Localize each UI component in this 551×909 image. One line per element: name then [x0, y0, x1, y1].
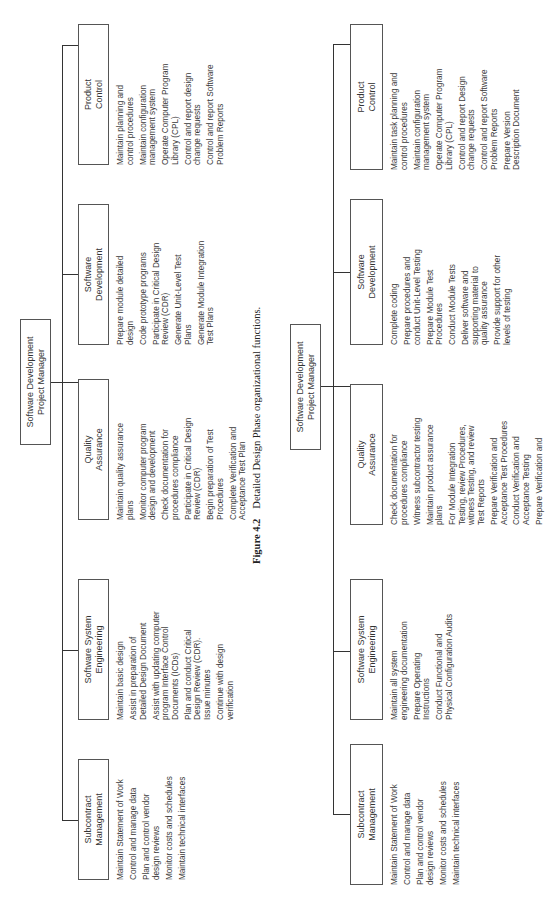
list-item: Maintain product assurance plans: [426, 360, 445, 525]
list-item: Deliver software and supporting material…: [461, 180, 490, 345]
unit-box-subcontract-management: Subcontract Management: [78, 759, 109, 880]
connector-subcontract: [333, 814, 350, 815]
list-item: Prepare Verification and Acceptance Test…: [490, 360, 509, 525]
manager-connector: [51, 382, 78, 383]
function-list-product-control: Maintain task planning and control proce…: [390, 5, 525, 170]
list-item: For Module Integration Testing, review P…: [448, 360, 486, 525]
unit-title: Quality Assurance: [83, 428, 105, 471]
figure-title: Detailed Design Phase organizational fun…: [251, 307, 262, 509]
unit-box-software-system-engineering: Software System Engineering: [350, 579, 383, 720]
unit-title: Quality Assurance: [356, 433, 378, 476]
function-list-software-development: Prepare module detailed design Code prot…: [116, 185, 219, 345]
list-item: Maintain Statement of Work: [116, 730, 126, 880]
unit-box-product-control: Product Control: [350, 24, 383, 170]
function-list-product-control: Maintain planning and control procedures…: [116, 5, 229, 165]
unit-title: Software System Engineering: [83, 615, 105, 683]
list-item: Complete Verification and Acceptance Tes…: [229, 360, 248, 520]
project-manager-label: Software Development Project Manager: [25, 336, 47, 427]
org-chart-next-phase: Software Development Project Manager Sub…: [272, 0, 547, 909]
unit-title: Software Development: [356, 245, 378, 298]
list-item: Provide support for other levels of test…: [493, 180, 512, 345]
list-item: Plan and control vendor design reviews: [416, 735, 435, 885]
connector-pc: [333, 44, 350, 45]
list-item: Check documentation for procedures compl…: [161, 360, 180, 520]
list-item: Participate in Critical Design Review (C…: [184, 360, 203, 520]
unit-box-software-system-engineering: Software System Engineering: [78, 579, 109, 720]
function-list-quality-assurance: Check documentation for procedures compl…: [390, 360, 548, 525]
unit-title: Subcontract Management: [83, 793, 105, 846]
org-chart-detailed-design: Software Development Project Manager Sub…: [0, 0, 275, 909]
manager-connector: [321, 386, 350, 387]
unit-box-quality-assurance: Quality Assurance: [350, 384, 383, 525]
list-item: Generate Module Integration Test Plans: [197, 185, 216, 345]
list-item: Maintain configuration management system: [413, 5, 432, 170]
list-item: Monitor costs and schedules: [439, 735, 449, 885]
function-list-subcontract-management: Maintain Statement of Work Control and m…: [116, 730, 191, 880]
connector-sse: [333, 651, 350, 652]
list-item: Participate in Critical Design Review (C…: [152, 185, 171, 345]
project-manager-label: Software Development Project Manager: [295, 341, 317, 432]
list-item: Begin preparation of Test Procedures: [206, 360, 225, 520]
connector-sd: [333, 272, 350, 273]
project-manager-box: Software Development Project Manager: [290, 324, 321, 450]
unit-title: Software System Engineering: [356, 615, 378, 683]
list-item: Control and report Design change request…: [458, 5, 477, 170]
unit-box-software-development: Software Development: [78, 204, 109, 345]
list-item: Conduct Module Tests: [448, 180, 458, 345]
list-item: Code prototype programs: [139, 185, 149, 345]
list-item: Maintain technical interfaces: [452, 735, 462, 885]
list-item: Conduct Verification and Acceptance Test…: [512, 360, 531, 525]
figure-number: Figure 4.2: [251, 519, 262, 564]
function-list-quality-assurance: Maintain quality assurance plans Monitor…: [116, 360, 251, 520]
list-item: Conduct Functional and Physical Configur…: [435, 555, 454, 720]
list-item: Monitor computer program design and deve…: [139, 360, 158, 520]
list-item: Maintain configuration management system: [139, 5, 158, 165]
list-item: Maintain all system engineering document…: [390, 555, 409, 720]
list-item: Monitor costs and schedules: [165, 730, 175, 880]
list-item: Plan and conduct Critical Design Review …: [184, 560, 213, 720]
list-item: Control and report Software Problem Repo…: [480, 5, 499, 170]
list-item: Control and report design change request…: [184, 5, 203, 165]
list-item: Maintain task planning and control proce…: [390, 5, 409, 170]
list-item: Continue with design verification: [216, 560, 235, 720]
unit-title: Subcontract Management: [356, 788, 378, 841]
org-spine: [62, 46, 63, 821]
list-item: Prepare Operating Instructions: [413, 555, 432, 720]
unit-box-subcontract-management: Subcontract Management: [350, 744, 383, 885]
list-item: Maintain technical interfaces: [178, 730, 188, 880]
list-item: Witness subcontractor testing: [413, 360, 423, 525]
connector-sse: [62, 650, 78, 651]
list-item: Operate Computer Program Library (CPL): [161, 5, 180, 165]
list-item: Check documentation for procedures compl…: [390, 360, 409, 525]
unit-box-quality-assurance: Quality Assurance: [78, 379, 109, 520]
function-list-software-system-engineering: Maintain basic design Assist in preparat…: [116, 560, 238, 720]
list-item: Complete coding: [390, 180, 400, 345]
list-item: Plan and control vendor design reviews: [142, 730, 161, 880]
list-item: Prepare procedures and conduct Unit-Leve…: [403, 180, 422, 345]
project-manager-box: Software Development Project Manager: [20, 319, 51, 445]
figure-caption: Figure 4.2Detailed Design Phase organiza…: [251, 307, 262, 564]
list-item: Control and report Software Problem Repo…: [206, 5, 225, 165]
list-item: Maintain planning and control procedures: [116, 5, 135, 165]
list-item: Prepare module detailed design: [116, 185, 135, 345]
list-item: Assist with updating computer program In…: [152, 560, 181, 720]
list-item: Prepare Verification and: [535, 360, 545, 525]
connector-sd: [62, 274, 78, 275]
connector-subcontract: [62, 820, 78, 821]
connector-pc: [62, 45, 78, 46]
list-item: Prepare Version Description Document: [503, 5, 522, 170]
list-item: Assist in preparation of Detailed Design…: [129, 560, 148, 720]
unit-title: Product Control: [356, 81, 378, 112]
list-item: Maintain quality assurance plans: [116, 360, 135, 520]
list-item: Generate Unit-Level Test Plans: [174, 185, 193, 345]
org-spine: [333, 45, 334, 815]
list-item: Prepare Module Test Procedures: [426, 180, 445, 345]
function-list-subcontract-management: Maintain Statement of Work Control and m…: [390, 735, 465, 885]
list-item: Control and manage data: [403, 735, 413, 885]
list-item: Maintain Statement of Work: [390, 735, 400, 885]
unit-title: Product Control: [83, 79, 105, 110]
list-item: Control and manage data: [129, 730, 139, 880]
list-item: Maintain basic design: [116, 560, 126, 720]
unit-box-product-control: Product Control: [78, 24, 109, 165]
list-item: Operate Computer Program Library (CPL): [435, 5, 454, 170]
